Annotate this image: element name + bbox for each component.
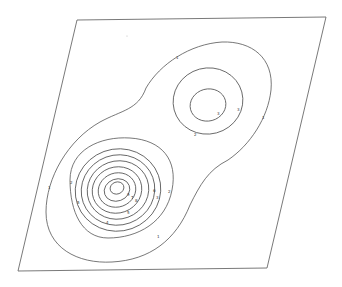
contour-label: 1 bbox=[48, 185, 51, 190]
contour-lower-level-9 bbox=[108, 180, 125, 196]
contour-lower-level-8 bbox=[101, 175, 133, 205]
contour-label: 3 bbox=[156, 195, 159, 200]
contour-label: 2 bbox=[168, 189, 171, 194]
contour-level-1-outer bbox=[46, 42, 271, 262]
contour-lower-level-5 bbox=[79, 152, 157, 228]
contour-plot: 1 1 1 1 2 2 2 3 3 3 4 5 5 6 7 8 9 bbox=[0, 0, 342, 287]
contour-label: 2 bbox=[70, 180, 73, 185]
contour-label: 5 bbox=[127, 210, 130, 215]
contour-label: 1 bbox=[157, 234, 160, 239]
contour-label: 9 bbox=[127, 192, 130, 197]
contour-label: 5 bbox=[77, 200, 80, 205]
contour-lower-level-3 bbox=[64, 137, 173, 243]
contour-lower-level-4 bbox=[71, 144, 164, 235]
speck-mark bbox=[126, 35, 127, 36]
contour-upper-level-3 bbox=[186, 85, 229, 125]
plot-frame bbox=[18, 17, 326, 271]
contour-lower-level-7 bbox=[93, 168, 140, 213]
contour-upper-level-2 bbox=[166, 60, 251, 142]
contours-lower-peak bbox=[64, 137, 174, 243]
contour-label: 6 bbox=[153, 188, 156, 193]
contour-label: 3 bbox=[237, 107, 240, 112]
contour-lower-level-2 bbox=[70, 138, 173, 238]
contour-label: 3 bbox=[217, 111, 220, 116]
